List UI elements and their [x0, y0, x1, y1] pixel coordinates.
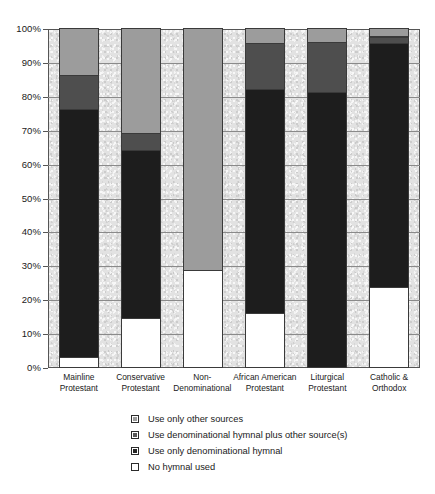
bar-segment-denom[interactable]	[121, 150, 161, 319]
bar-segment-none[interactable]	[183, 270, 223, 368]
bar-segment-none[interactable]	[245, 313, 285, 368]
bar-slot	[358, 29, 420, 368]
bar-segment-denom[interactable]	[307, 92, 347, 368]
legend-label: Use only denominational hymnal	[148, 445, 282, 457]
bar-segment-other[interactable]	[59, 28, 99, 76]
bar-slot	[110, 29, 172, 368]
bar-segment-plus[interactable]	[59, 75, 99, 110]
bar-segment-other[interactable]	[245, 28, 285, 44]
y-axis-tick-label: 50%	[22, 192, 41, 205]
y-axis-tick-label: 10%	[22, 327, 41, 340]
y-axis-tick-label: 0%	[27, 361, 41, 374]
x-axis-label-line: Protestant	[110, 383, 172, 394]
x-axis-label-line: Denominational	[171, 383, 233, 394]
bar-segment-denom[interactable]	[369, 43, 409, 288]
x-axis-label-line: Non-	[171, 372, 233, 383]
y-axis-tick-label: 100%	[16, 22, 41, 35]
bar-segment-plus[interactable]	[121, 133, 161, 151]
bar-segment-plus[interactable]	[245, 43, 285, 90]
x-axis-label-line: African American	[233, 372, 296, 383]
legend-item[interactable]: Use only denominational hymnal	[131, 443, 421, 459]
bar-segment-other[interactable]	[121, 28, 161, 134]
y-axis-tick-mark	[43, 368, 48, 369]
legend-item[interactable]: Use only other sources	[131, 411, 421, 427]
y-axis-tick-label: 90%	[22, 56, 41, 69]
y-axis-tick-label: 20%	[22, 293, 41, 306]
bar-segment-plus[interactable]	[369, 37, 409, 45]
bar-slot	[296, 29, 358, 368]
stacked-bar[interactable]	[59, 29, 99, 368]
y-axis-tick-label: 30%	[22, 259, 41, 272]
x-axis-label-line: Catholic &	[358, 372, 420, 383]
stacked-bar[interactable]	[121, 29, 161, 368]
legend-label: Use denominational hymnal plus other sou…	[148, 429, 347, 441]
bar-slot	[48, 29, 110, 368]
stacked-bar-chart: 100%90%80%70%60%50%40%30%20%10%0% Mainli…	[0, 0, 435, 494]
bar-segment-other[interactable]	[183, 28, 223, 271]
y-axis-tick-label: 40%	[22, 225, 41, 238]
x-axis-label-line: Protestant	[48, 383, 110, 394]
bar-segment-plus[interactable]	[307, 42, 347, 94]
stacked-bar[interactable]	[183, 29, 223, 368]
stacked-bar[interactable]	[369, 29, 409, 368]
y-axis-tick-label: 60%	[22, 158, 41, 171]
x-axis-label-line: Protestant	[297, 383, 359, 394]
legend-label: Use only other sources	[148, 413, 243, 425]
x-axis-category-label: MainlineProtestant	[48, 372, 110, 393]
x-axis-label-line: Orthodox	[358, 383, 420, 394]
stacked-bar[interactable]	[307, 29, 347, 368]
legend-item[interactable]: Use denominational hymnal plus other sou…	[131, 427, 421, 443]
bar-segment-none[interactable]	[121, 318, 161, 368]
y-axis: 100%90%80%70%60%50%40%30%20%10%0%	[0, 29, 48, 368]
bar-segment-none[interactable]	[59, 357, 99, 368]
bar-segment-other[interactable]	[307, 28, 347, 43]
legend-swatch-none	[131, 463, 139, 471]
bar-slot	[234, 29, 296, 368]
bar-segment-denom[interactable]	[245, 89, 285, 314]
x-axis-category-label: ConservativeProtestant	[110, 372, 172, 393]
legend-item[interactable]: No hymnal used	[131, 459, 421, 475]
x-axis-label-line: Mainline	[48, 372, 110, 383]
x-axis-category-label: LiturgicalProtestant	[297, 372, 359, 393]
chart-legend: Use only other sourcesUse denominational…	[131, 411, 421, 475]
legend-swatch-other	[131, 415, 139, 423]
bar-segment-other[interactable]	[369, 28, 409, 37]
bar-slot	[172, 29, 234, 368]
x-axis-label-line: Liturgical	[297, 372, 359, 383]
x-axis-category-label: African AmericanProtestant	[233, 372, 296, 393]
x-axis-label-line: Conservative	[110, 372, 172, 383]
x-axis-category-label: Non-Denominational	[171, 372, 233, 393]
stacked-bar[interactable]	[245, 29, 285, 368]
bar-group	[48, 29, 420, 368]
y-axis-tick-label: 80%	[22, 90, 41, 103]
legend-swatch-denom	[131, 447, 139, 455]
legend-swatch-plus	[131, 431, 139, 439]
bar-segment-denom[interactable]	[59, 109, 99, 357]
plot-area	[48, 29, 420, 368]
x-axis: MainlineProtestantConservativeProtestant…	[48, 372, 420, 393]
x-axis-category-label: Catholic &Orthodox	[358, 372, 420, 393]
legend-label: No hymnal used	[148, 461, 215, 473]
x-axis-label-line: Protestant	[233, 383, 296, 394]
bar-segment-none[interactable]	[369, 287, 409, 368]
y-axis-tick-label: 70%	[22, 124, 41, 137]
